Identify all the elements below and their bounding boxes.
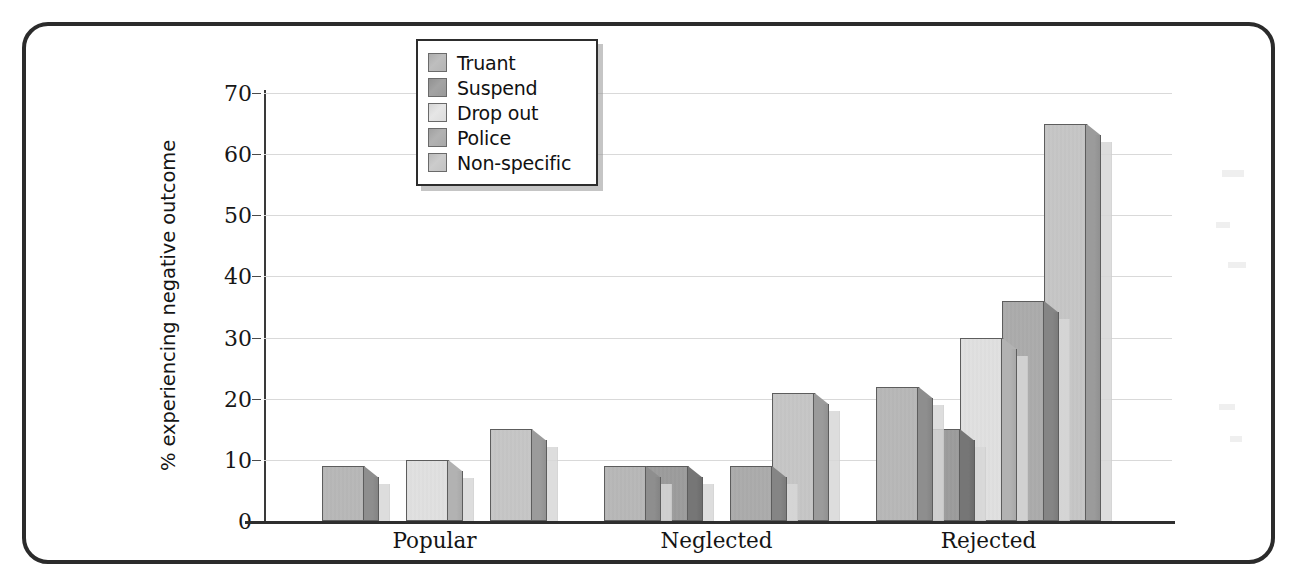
bar-neglected-police <box>730 466 772 521</box>
scan-artifact <box>1222 170 1244 177</box>
bar-popular-truant <box>322 466 364 521</box>
bar-shadow <box>703 484 714 521</box>
bar-side-face <box>364 477 379 521</box>
bar-shadow <box>975 447 986 521</box>
y-tick-label: 30 <box>224 325 252 350</box>
legend-label: Suspend <box>457 77 537 99</box>
legend-swatch-icon <box>428 103 447 122</box>
bar-side-face <box>918 398 933 522</box>
bar-popular-drop-out <box>406 460 448 521</box>
bar-front-face <box>604 466 646 521</box>
y-tick-mark <box>252 338 261 339</box>
y-axis-tick-labels: 010203040506070 <box>196 93 252 521</box>
legend-item-non-specific[interactable]: Non-specific <box>428 150 586 175</box>
bar-neglected-truant <box>604 466 646 521</box>
legend-item-police[interactable]: Police <box>428 125 586 150</box>
bar-shadow <box>1017 356 1028 521</box>
bar-side-face <box>1044 312 1059 521</box>
bar-shadow <box>829 411 840 521</box>
bar-shadow <box>547 447 558 521</box>
plot-area <box>264 93 1172 521</box>
bar-shadow <box>661 484 672 521</box>
scan-artifact <box>1216 222 1230 228</box>
y-tick-mark <box>252 399 261 400</box>
y-tick-label: 70 <box>224 81 252 106</box>
bar-group-rejected <box>876 93 1101 521</box>
chart-legend: TruantSuspendDrop outPoliceNon-specific <box>416 39 598 186</box>
scan-artifact <box>1230 436 1242 442</box>
bar-front-face <box>322 466 364 521</box>
bar-front-face <box>876 387 918 522</box>
legend-label: Drop out <box>457 102 538 124</box>
bar-front-face <box>490 429 532 521</box>
x-category-label-popular: Popular <box>345 528 525 553</box>
legend-swatch-icon <box>428 153 447 172</box>
bar-side-face <box>772 477 787 521</box>
bar-shadow <box>933 405 944 522</box>
bar-shadow <box>1101 142 1112 521</box>
y-tick-label: 10 <box>224 447 252 472</box>
bar-shadow <box>379 484 390 521</box>
chart-screenshot: % experiencing negative outcome 01020304… <box>0 0 1301 588</box>
bar-side-face <box>814 404 829 521</box>
bar-shadow <box>1059 319 1070 521</box>
y-tick-label: 60 <box>224 142 252 167</box>
bar-side-face <box>448 471 463 521</box>
y-tick-label: 50 <box>224 203 252 228</box>
x-category-label-neglected: Neglected <box>627 528 807 553</box>
legend-label: Non-specific <box>457 152 571 174</box>
legend-swatch-icon <box>428 128 447 147</box>
bar-side-face <box>1002 349 1017 521</box>
y-tick-mark <box>252 460 261 461</box>
legend-item-suspend[interactable]: Suspend <box>428 75 586 100</box>
legend-item-truant[interactable]: Truant <box>428 50 586 75</box>
legend-swatch-icon <box>428 78 447 97</box>
bar-shadow <box>463 478 474 521</box>
y-tick-mark <box>252 276 261 277</box>
scan-artifact <box>1228 262 1246 268</box>
y-tick-label: 20 <box>224 386 252 411</box>
bar-front-face <box>730 466 772 521</box>
bar-front-face <box>406 460 448 521</box>
bar-side-face <box>1086 135 1101 521</box>
bar-rejected-truant <box>876 387 918 522</box>
y-tick-mark <box>252 215 261 216</box>
y-axis-label: % experiencing negative outcome <box>157 116 180 496</box>
legend-swatch-icon <box>428 53 447 72</box>
bar-side-face <box>688 477 703 521</box>
bar-shadow <box>787 484 798 521</box>
bar-side-face <box>532 440 547 521</box>
bar-popular-non-specific <box>490 429 532 521</box>
scan-artifact <box>1219 404 1235 410</box>
legend-item-drop-out[interactable]: Drop out <box>428 100 586 125</box>
bar-side-face <box>646 477 661 521</box>
legend-label: Police <box>457 127 511 149</box>
y-tick-mark <box>252 93 261 94</box>
gridline <box>264 521 1172 522</box>
y-tick-mark <box>252 154 261 155</box>
legend-label: Truant <box>457 52 516 74</box>
bar-side-face <box>960 440 975 521</box>
bar-group-neglected <box>604 93 829 521</box>
x-category-label-rejected: Rejected <box>899 528 1079 553</box>
y-tick-label: 40 <box>224 264 252 289</box>
